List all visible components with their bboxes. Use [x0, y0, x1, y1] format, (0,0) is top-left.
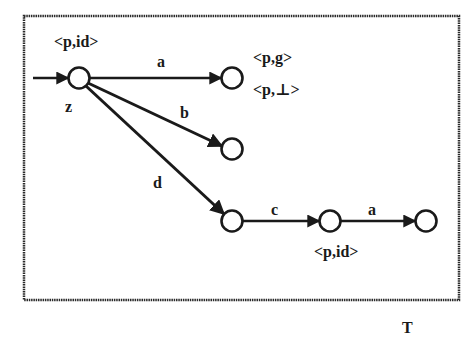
transition-label-a1: a — [157, 53, 165, 70]
state-node-s3 — [222, 211, 243, 232]
transition-label-c: c — [271, 201, 278, 218]
transition-label-b: b — [180, 104, 189, 121]
state-node-s2 — [222, 139, 243, 160]
state-node-s1 — [222, 68, 243, 89]
transition-label-a2: a — [368, 201, 376, 218]
state-annotation-s1-bottom: <p,⊥> — [253, 81, 300, 99]
state-node-s5 — [416, 211, 437, 232]
initial-label: z — [65, 98, 72, 115]
diagram-frame — [24, 16, 459, 300]
diagram-caption: T — [402, 319, 413, 336]
state-annotation-s0: <p,id> — [54, 33, 98, 51]
state-annotation-s1-top: <p,g> — [253, 49, 292, 67]
transition-label-d: d — [153, 174, 162, 191]
state-annotation-s4: <p,id> — [314, 243, 358, 261]
state-node-s0 — [69, 68, 90, 89]
transition-b-s0-s2 — [88, 83, 222, 146]
transition-d-s0-s3 — [86, 86, 224, 214]
automaton-diagram: <p,id> z a b d c a <p,g> <p,⊥> <p,id> T — [0, 0, 475, 337]
state-node-s4 — [320, 211, 341, 232]
